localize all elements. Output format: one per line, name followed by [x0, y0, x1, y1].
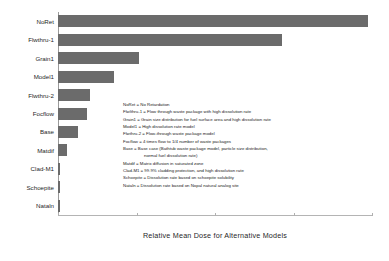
- y-axis-label-clad-m1: Clad-M1: [2, 165, 54, 172]
- x-axis-title: Relative Mean Dose for Alternative Model…: [58, 231, 372, 240]
- bar-fill: [58, 144, 67, 156]
- y-axis-label-model1: Model1: [2, 73, 54, 80]
- y-axis-label-noret: NoRet: [2, 18, 54, 25]
- bar-fill: [58, 89, 90, 101]
- legend-line-10: Schoepite = Dissolution rate based on sc…: [123, 174, 373, 181]
- y-axis-label-schoepite: Schoepite: [2, 184, 54, 191]
- bar-grain1: [58, 52, 139, 64]
- bar-fill: [58, 34, 282, 46]
- y-axis-label-matdif: Matdif: [2, 147, 54, 154]
- bar-noret: [58, 15, 368, 27]
- y-axis-label-grain1: Grain1: [2, 55, 54, 62]
- legend-line-5: Focflow = 4 times flow to 1/4 number of …: [123, 138, 373, 145]
- bar-clad-m1: [58, 163, 60, 175]
- bar-fill: [58, 181, 60, 193]
- bar-focflow: [58, 108, 87, 120]
- bar-base: [58, 126, 78, 138]
- bar-flwthru-1: [58, 34, 282, 46]
- legend-line-9: Clad-M1 = 99.9% cladding protection, and…: [123, 167, 373, 174]
- legend-line-11: Nataln = Dissolution rate based on Nopal…: [123, 182, 373, 189]
- bar-schoepite: [58, 181, 60, 193]
- bar-matdif: [58, 144, 67, 156]
- y-axis-label-flwthru-1: Flwthru-1: [2, 36, 54, 43]
- bar-nataln: [58, 200, 60, 212]
- bar-fill: [58, 163, 60, 175]
- bar-fill: [58, 108, 87, 120]
- legend-line-1: Flwlthru-1 = Flow through waste package …: [123, 108, 373, 115]
- bar-chart: NoRetFlwthru-1Grain1Model1Flwthru-2Focfl…: [0, 0, 389, 261]
- x-tick-4: [372, 213, 373, 216]
- legend-line-3: Model1 = High dissolution rate model: [123, 123, 373, 130]
- y-axis-label-base: Base: [2, 128, 54, 135]
- bar-model1: [58, 71, 114, 83]
- y-axis-label-flwthru-2: Flwthru-2: [2, 92, 54, 99]
- bar-fill: [58, 71, 114, 83]
- bar-fill: [58, 52, 139, 64]
- legend-line-7: normal fuel dissolution rate): [123, 152, 373, 159]
- bar-fill: [58, 126, 78, 138]
- bar-flwthru-2: [58, 89, 90, 101]
- legend-key: NoRet = No RetardationFlwlthru-1 = Flow …: [123, 101, 373, 189]
- y-axis-label-focflow: Focflow: [2, 110, 54, 117]
- bar-fill: [58, 200, 60, 212]
- legend-line-4: Flwthru-2 = Flow-through waste package m…: [123, 130, 373, 137]
- legend-line-6: Base = Base case (Bathtub waste package …: [123, 145, 373, 152]
- legend-line-0: NoRet = No Retardation: [123, 101, 373, 108]
- bar-fill: [58, 15, 368, 27]
- legend-line-8: Matdif = Matrix diffusion in saturated z…: [123, 160, 373, 167]
- legend-line-2: Grain1 = Grain size distribution for fue…: [123, 116, 373, 123]
- y-axis-label-nataln: Nataln: [2, 202, 54, 209]
